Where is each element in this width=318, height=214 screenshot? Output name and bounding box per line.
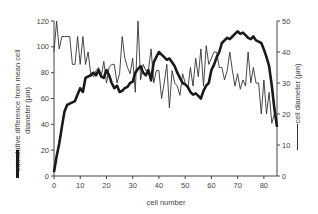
left-axis-title: cumulative difference from mean celldiam… — [13, 49, 32, 171]
series-cumulative-difference — [54, 31, 277, 172]
x-tick-label: 30 — [129, 181, 137, 190]
x-tick-label: 50 — [181, 181, 189, 190]
left-tick-label: 20 — [41, 146, 49, 155]
svg-text:cell diameter (µm): cell diameter (µm) — [293, 63, 302, 124]
series-cell-diameter — [54, 21, 277, 123]
cumulative-difference-line — [54, 31, 277, 172]
x-tick-label: 60 — [207, 181, 215, 190]
left-tick-label: 40 — [41, 120, 49, 129]
left-tick-label: 80 — [41, 68, 49, 77]
dual-axis-line-chart: 0204060801001200102030405001020304050607… — [0, 0, 318, 214]
right-axis-title: cell diameter (µm) — [293, 63, 302, 124]
x-tick-label: 40 — [155, 181, 163, 190]
right-tick-label: 50 — [282, 17, 290, 26]
left-tick-label: 120 — [36, 17, 49, 26]
left-tick-label: 0 — [45, 172, 49, 181]
x-tick-label: 10 — [76, 181, 84, 190]
x-tick-label: 20 — [102, 181, 110, 190]
x-tick-label: 70 — [233, 181, 241, 190]
left-tick-label: 60 — [41, 94, 49, 103]
left-tick-label: 100 — [36, 42, 49, 51]
right-tick-label: 20 — [282, 110, 290, 119]
cell-diameter-line — [54, 21, 277, 123]
axes: 0204060801001200102030405001020304050607… — [36, 17, 290, 191]
right-tick-label: 10 — [282, 141, 290, 150]
x-axis-title: cell number — [147, 198, 186, 207]
right-tick-label: 30 — [282, 79, 290, 88]
right-tick-label: 0 — [282, 172, 286, 181]
right-tick-label: 40 — [282, 48, 290, 57]
svg-text:diameter (µm): diameter (µm) — [23, 87, 32, 134]
x-tick-label: 0 — [52, 181, 56, 190]
x-tick-label: 80 — [260, 181, 268, 190]
